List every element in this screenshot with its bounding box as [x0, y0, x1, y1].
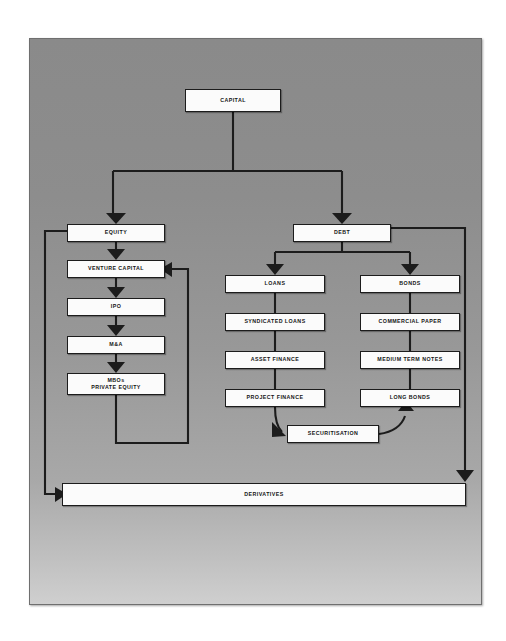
node-securitisation[interactable]: SECURITISATION — [287, 425, 379, 443]
node-medium-term-notes[interactable]: MEDIUM TERM NOTES — [360, 351, 460, 369]
node-loans[interactable]: LOANS — [225, 275, 325, 293]
node-commercial-paper[interactable]: COMMERCIAL PAPER — [360, 313, 460, 331]
node-equity[interactable]: EQUITY — [67, 224, 165, 242]
node-project-finance[interactable]: PROJECT FINANCE — [225, 389, 325, 407]
node-debt[interactable]: DEBT — [293, 224, 391, 242]
node-syndicated-loans[interactable]: SYNDICATED LOANS — [225, 313, 325, 331]
node-capital[interactable]: CAPITAL — [185, 89, 281, 112]
node-m-and-a[interactable]: M&A — [67, 336, 165, 354]
node-derivatives[interactable]: DERIVATIVES — [62, 483, 466, 506]
node-asset-finance[interactable]: ASSET FINANCE — [225, 351, 325, 369]
node-bonds[interactable]: BONDS — [360, 275, 460, 293]
node-venture-capital[interactable]: VENTURE CAPITAL — [67, 260, 165, 278]
node-mbos[interactable]: MBOs PRIVATE EQUITY — [67, 373, 165, 395]
node-long-bonds[interactable]: LONG BONDS — [360, 389, 460, 407]
node-ipo[interactable]: IPO — [67, 298, 165, 316]
diagram-page: CAPITAL EQUITY DEBT VENTURE CAPITAL IPO … — [0, 0, 506, 641]
